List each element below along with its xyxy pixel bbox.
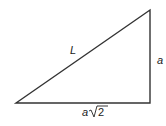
base-label: a 2: [82, 106, 108, 118]
right-triangle: [16, 10, 150, 103]
hypotenuse-label: L: [70, 44, 76, 56]
base-variable-label: a: [82, 106, 88, 118]
base-radicand-label: 2: [98, 106, 104, 118]
vertical-side-label: a: [157, 54, 163, 66]
triangle-diagram: L a a 2: [0, 0, 166, 126]
